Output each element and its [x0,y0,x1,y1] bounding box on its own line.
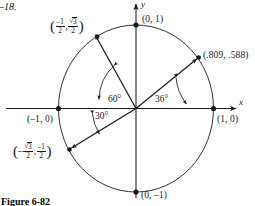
point-label-left: (–1, 0) [27,115,53,125]
fraction-x-210-numerator: √3 [23,142,33,152]
terminal-dot-36 [196,55,201,60]
sign-x-210: – [18,146,23,156]
x-axis-label: x [239,98,243,107]
radical-sign-x-210: √ [24,142,28,150]
point-dot-top [133,22,138,27]
angle-label-60: 60° [108,95,121,105]
fraction-y-120-numerator: √3 [68,17,78,27]
point-label-120-deg: (–12,√32) [50,17,84,34]
point-dot-right [211,106,216,111]
fraction-y-210-denominator: 2 [37,152,46,160]
open-paren-210: ( [13,143,18,159]
point-dot-bottom [133,189,138,194]
unit-circle-figure: –18. x y (0, 1) (1, 0) (–1, 0) (0, –1) (… [0,0,255,206]
fraction-x-120-denominator: 2 [56,27,65,35]
sqrt-y-120: √3 [69,17,77,26]
point-label-210-deg: (–√32,–12) [13,142,51,159]
terminal-dot-120 [95,34,100,39]
exercise-note: –18. [0,1,17,12]
angle-arc-36 [176,78,187,105]
point-label-top: (0, 1) [142,15,163,25]
fraction-x-210: √32 [23,142,33,159]
figure-caption: Figure 6-82 [1,196,50,206]
angle-label-36: 36° [155,95,168,105]
terminal-dot-210 [67,147,72,152]
close-paren: ) [79,18,84,34]
sqrt-x-210: √3 [24,142,32,151]
fraction-y-120: √32 [68,17,78,34]
point-label-right: (1, 0) [217,115,238,125]
point-label-bottom: (0, –1) [141,191,167,201]
point-dot-left [56,106,61,111]
angle-label-30: 30° [95,112,108,122]
point-label-36-deg: (.809, .588) [203,51,249,61]
close-paren-210: ) [46,143,51,159]
radical-sign-y-120: √ [69,17,73,25]
open-paren: ( [50,18,55,34]
y-axis-label: y [141,0,145,9]
fraction-y-210: –12 [37,143,46,159]
fraction-x-210-denominator: 2 [23,152,33,160]
fraction-y-120-denominator: 2 [68,27,78,35]
fraction-x-120: –12 [56,18,65,34]
figure-graphic [0,0,255,206]
